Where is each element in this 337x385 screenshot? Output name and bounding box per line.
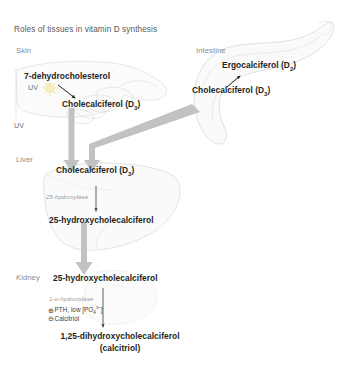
tissue-label-skin: Skin xyxy=(16,47,31,55)
tissue-label-intestine: Intestine xyxy=(196,47,226,55)
ergocalciferol-text: Ergocalciferol (D xyxy=(222,60,290,70)
cholecalciferol-liver-text: Cholecalciferol (D xyxy=(56,165,128,175)
sun-icon xyxy=(43,81,58,96)
inhibitor-text: Calcitriol xyxy=(55,315,80,322)
metabolite-calcitriol-alt: (calcitriol) xyxy=(40,344,200,353)
page-title: Roles of tissues in vitamin D synthesis xyxy=(14,25,157,34)
metabolite-cholecalciferol-intestine: Cholecalciferol (D3) xyxy=(192,86,270,97)
metabolite-7-dehydrocholesterol: 7-dehydrocholesterol xyxy=(24,72,110,81)
cholecalciferol-intestine-tail: ) xyxy=(268,85,271,95)
diagram-artwork xyxy=(0,0,337,385)
metabolite-125-dihydroxycholecalciferol: 1,25-dihydroxycholecalciferol xyxy=(40,332,200,341)
tissue-label-kidney: Kidney xyxy=(16,274,40,282)
ergocalciferol-tail: ) xyxy=(293,60,296,70)
metabolite-25-hydroxycholecalciferol-liver: 25-hydroxycholecalciferol xyxy=(49,216,154,225)
metabolite-ergocalciferol: Ergocalciferol (D2) xyxy=(222,61,296,72)
cholecalciferol-skin-text: Cholecalciferol (D xyxy=(62,99,134,109)
metabolite-25-hydroxycholecalciferol-kidney: 25-hydroxycholecalciferol xyxy=(53,274,158,283)
intestine-icon xyxy=(194,21,334,144)
tissue-label-liver: Liver xyxy=(16,156,33,164)
activator-sub: 4 xyxy=(93,310,96,315)
cholecalciferol-intestine-text: Cholecalciferol (D xyxy=(192,85,264,95)
enzyme-25-hydroxylase: 25-hydroxylase xyxy=(46,194,88,201)
activator-text: PTH, low [PO xyxy=(55,306,94,313)
minus-circle-icon: ⊖ xyxy=(48,314,54,323)
cholecalciferol-skin-tail: ) xyxy=(138,99,141,109)
metabolite-cholecalciferol-skin: Cholecalciferol (D3) xyxy=(62,100,140,111)
enzyme-1-alpha-hydroxylase: 1-α-hydroxylase xyxy=(49,296,93,303)
regulator-inhibitor: ⊖Calcitriol xyxy=(48,315,79,323)
uv-axis-label: UV xyxy=(14,122,24,130)
activator-tail: ] xyxy=(101,306,103,313)
cholecalciferol-liver-tail: ) xyxy=(132,165,135,175)
metabolite-cholecalciferol-liver: Cholecalciferol (D3) xyxy=(56,166,134,177)
uv-label-skin: UV xyxy=(28,84,38,92)
vitamin-d-synthesis-diagram: Roles of tissues in vitamin D synthesis … xyxy=(0,0,337,385)
arrow-intestine-to-liver xyxy=(84,104,200,172)
